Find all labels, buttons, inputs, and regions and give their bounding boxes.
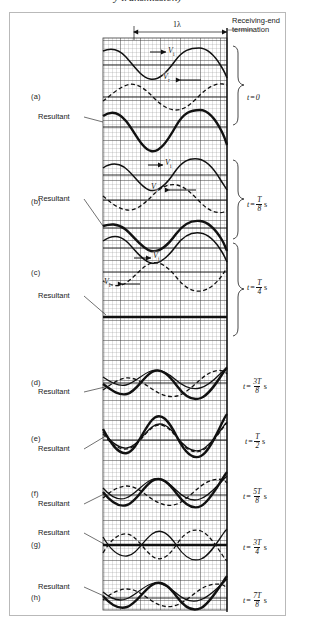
- wavelength-label: 1λ: [173, 20, 181, 29]
- resultant-label-d: Resultant: [38, 387, 70, 396]
- resultant-label-e: Resultant: [38, 444, 70, 453]
- time-group-braces: [233, 46, 244, 336]
- resultant-label-g: Resultant: [38, 528, 70, 537]
- time-label-d: t= 3T8 s: [243, 378, 267, 394]
- panel-letter-h: (h): [31, 593, 41, 602]
- resultant-label-c: Resultant: [38, 291, 70, 300]
- reflected-voltage-label-b: Vr: [151, 182, 158, 193]
- time-label-e: t= T2 s: [245, 433, 265, 449]
- incident-voltage-label-b: Vi: [165, 158, 171, 169]
- reflected-voltage-label-a: Vr: [163, 72, 170, 83]
- resultant-label-h: Resultant: [38, 582, 70, 591]
- panel-letter-f: (f): [31, 489, 39, 498]
- resultant-label-f: Resultant: [38, 499, 70, 508]
- time-label-f: t= 5T8 s: [243, 488, 267, 504]
- reflected-voltage-label-c: Vr: [104, 277, 111, 288]
- resultant-label-a: Resultant: [38, 112, 70, 121]
- grid-block: [103, 38, 227, 610]
- time-label-a: t=0: [247, 93, 260, 102]
- resultant-label-b: Resultant: [38, 194, 70, 203]
- panel-letter-c: (c): [31, 268, 40, 277]
- time-label-g: t= 3T4 s: [243, 539, 267, 555]
- panel-letter-a: (a): [31, 92, 41, 101]
- receiving-end-label-line1: Receiving-end: [232, 16, 280, 25]
- time-label-c: t= T4 s: [247, 279, 267, 295]
- panel-letter-d: (d): [31, 378, 41, 387]
- panel-letter-g: (g): [31, 540, 41, 549]
- time-label-b: t= T8 s: [247, 196, 267, 212]
- receiving-end-line: [227, 28, 253, 612]
- receiving-end-label-line2: termination: [232, 25, 269, 34]
- incident-voltage-label-c: Vi: [153, 251, 159, 262]
- incident-voltage-label-a: Vi: [168, 46, 174, 57]
- panel-letter-e: (e): [31, 434, 41, 443]
- time-label-h: t= 7T8 s: [243, 592, 267, 608]
